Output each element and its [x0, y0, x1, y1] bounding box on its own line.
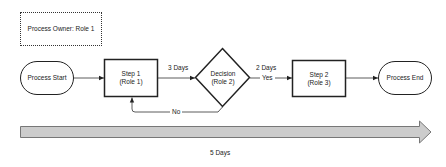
step-2-role: (Role 3) — [307, 79, 330, 87]
process-owner-label: Process Owner: Role 1 — [28, 25, 95, 33]
step-1-role: (Role 1) — [119, 78, 142, 86]
flowchart-canvas: Process Owner: Role 1 Process Start Step… — [0, 0, 446, 167]
step-1-node[interactable]: Step 1 (Role 1) — [104, 59, 158, 97]
process-start-label: Process Start — [27, 74, 66, 82]
step-2-title: Step 2 — [310, 71, 329, 79]
step-2-node[interactable]: Step 2 (Role 3) — [292, 60, 346, 97]
decision-node[interactable]: Decision (Role 2) — [196, 59, 250, 97]
step1-to-decision-duration: 3 Days — [168, 64, 188, 72]
process-end-label: Process End — [387, 74, 424, 82]
decision-title: Decision — [211, 70, 236, 78]
timeline-arrow — [21, 121, 432, 143]
process-owner-box: Process Owner: Role 1 — [20, 12, 102, 46]
decision-no-branch-label: No — [170, 108, 182, 116]
process-start-node[interactable]: Process Start — [20, 61, 74, 95]
step-1-title: Step 1 — [122, 70, 141, 78]
decision-role: (Role 2) — [211, 78, 234, 86]
timeline-total-duration: 5 Days — [210, 149, 230, 157]
process-end-node[interactable]: Process End — [378, 61, 432, 95]
decision-to-step2-duration: 2 Days — [256, 64, 276, 72]
decision-yes-branch-label: Yes — [260, 74, 275, 82]
